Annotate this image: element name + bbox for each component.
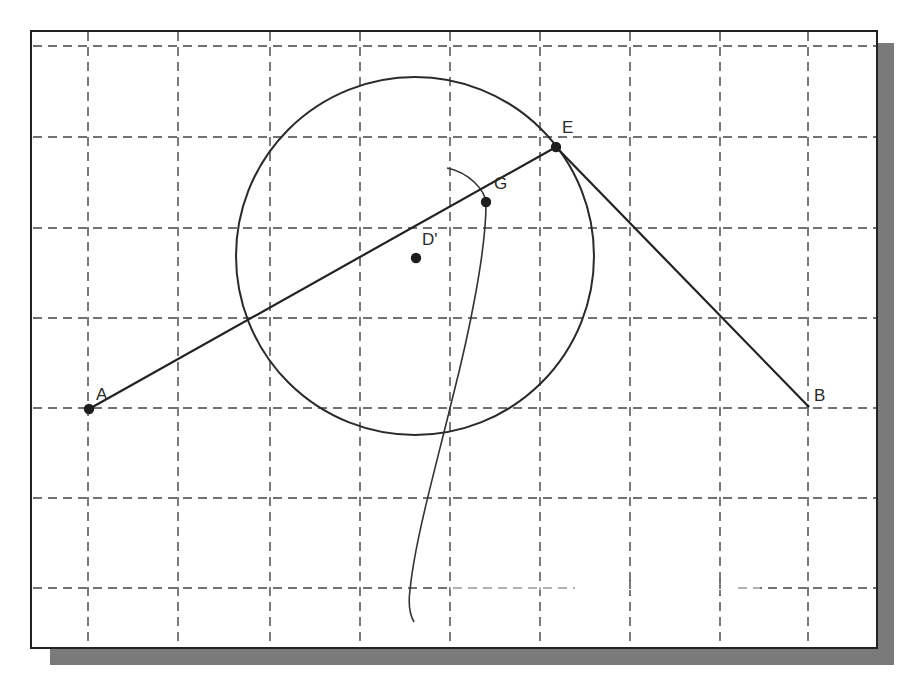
frame-border	[31, 31, 877, 648]
label-b: B	[814, 386, 825, 405]
point-dprime	[411, 253, 421, 263]
drawing-frame	[31, 31, 877, 648]
label-dprime: D'	[422, 230, 438, 249]
label-g: G	[494, 174, 507, 193]
label-a: A	[96, 385, 108, 404]
point-a	[84, 404, 94, 414]
shadow-right	[877, 43, 894, 665]
label-e: E	[562, 118, 573, 137]
point-b	[806, 404, 809, 407]
point-e	[551, 142, 561, 152]
geometry-diagram: AD'GEB	[0, 0, 912, 681]
shadow-bottom	[50, 648, 894, 665]
point-g	[481, 197, 491, 207]
